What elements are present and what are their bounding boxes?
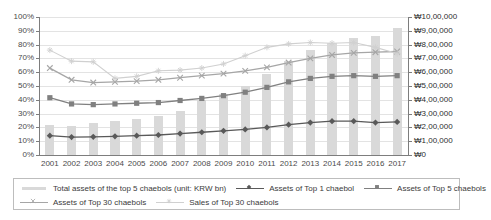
data-point-diamond — [247, 185, 252, 190]
legend-item[interactable]: Sales of Top 30 chaebols — [156, 197, 278, 208]
data-point-cross — [31, 199, 35, 203]
x-axis-tick-label: 2017 — [384, 159, 410, 168]
data-point-square — [91, 102, 96, 107]
data-point-square — [243, 90, 248, 95]
data-point-diamond — [68, 134, 74, 140]
data-point-square — [134, 101, 139, 106]
left-axis-tick-label: 100% — [14, 13, 34, 21]
data-point-star — [90, 59, 96, 65]
right-axis-tick-label: ₩9,00,000 — [414, 27, 453, 35]
data-point-square — [264, 85, 269, 90]
data-point-square — [329, 74, 334, 79]
right-axis-tick — [409, 86, 412, 87]
legend-item[interactable]: Assets of Top 5 chaebols — [364, 183, 486, 194]
data-point-diamond — [47, 133, 53, 139]
data-point-star — [264, 44, 270, 50]
chart-legend: Total assets of the top 5 chaebols (unit… — [13, 178, 460, 210]
data-point-diamond — [372, 119, 378, 125]
legend-item[interactable]: Assets of Top 1 chaebol — [236, 183, 354, 194]
right-axis-tick — [409, 114, 412, 115]
data-point-diamond — [286, 122, 292, 128]
legend-marker-diamond — [246, 184, 252, 190]
legend-marker-square — [374, 184, 380, 190]
legend-label: Assets of Top 1 chaebol — [269, 184, 354, 193]
right-axis-tick — [409, 58, 412, 59]
data-point-diamond — [220, 128, 226, 134]
data-point-cross — [47, 65, 53, 71]
data-point-diamond — [155, 132, 161, 138]
data-point-square — [308, 76, 313, 81]
data-point-square — [47, 95, 52, 100]
legend-swatch-cross — [20, 197, 48, 208]
legend-label: Total assets of the top 5 chaebols (unit… — [53, 184, 226, 193]
legend-item[interactable]: Total assets of the top 5 chaebols (unit… — [20, 183, 226, 194]
data-point-star — [351, 40, 357, 46]
data-point-star — [155, 68, 161, 74]
left-axis-tick-label: 70% — [18, 54, 34, 62]
left-axis-tick-label: 40% — [18, 96, 34, 104]
data-point-square — [112, 101, 117, 106]
data-point-star — [394, 51, 400, 57]
data-point-square — [395, 73, 400, 78]
plot-region: 0%10%20%30%40%50%60%70%80%90%100% ₩0₩1,0… — [0, 0, 476, 172]
legend-swatch-square — [364, 183, 392, 194]
line-series-layer — [39, 17, 408, 155]
right-axis-tick-label: ₩0 — [414, 151, 426, 159]
line-assets_top5 — [50, 76, 397, 105]
data-point-diamond — [134, 133, 140, 139]
right-axis-tick — [409, 100, 412, 101]
left-axis-tick-label: 80% — [18, 41, 34, 49]
data-point-star — [221, 61, 227, 67]
legend-row-2: Assets of Top 30 chaebolsSales of Top 30… — [20, 195, 289, 209]
data-point-star — [69, 58, 75, 64]
legend-swatch-diamond — [236, 183, 264, 194]
data-point-square — [351, 73, 356, 78]
right-axis-tick — [409, 141, 412, 142]
legend-item[interactable]: Assets of Top 30 chaebols — [20, 197, 146, 208]
left-axis-tick-label: 0% — [22, 151, 34, 159]
legend-label: Assets of Top 5 chaebols — [397, 184, 486, 193]
left-axis-tick-label: 90% — [18, 27, 34, 35]
left-axis-tick-label: 50% — [18, 82, 34, 90]
data-point-diamond — [329, 118, 335, 124]
data-point-square — [156, 100, 161, 105]
right-axis-tick — [409, 155, 412, 156]
data-point-star — [242, 53, 248, 59]
data-point-diamond — [90, 134, 96, 140]
data-point-star — [47, 47, 53, 53]
data-point-square — [69, 101, 74, 106]
right-axis-tick-label: ₩6,00,000 — [414, 68, 453, 76]
right-axis-tick — [409, 17, 412, 18]
right-axis-tick — [409, 127, 412, 128]
data-point-diamond — [264, 124, 270, 130]
data-point-diamond — [112, 133, 118, 139]
data-point-square — [199, 96, 204, 101]
left-axis-tick-label: 30% — [18, 110, 34, 118]
left-axis-tick-label: 20% — [18, 123, 34, 131]
data-point-star — [307, 40, 313, 46]
legend-marker-star — [166, 198, 172, 204]
right-axis-tick-label: ₩3,00,000 — [414, 110, 453, 118]
data-point-star — [177, 67, 183, 73]
data-point-square — [221, 93, 226, 98]
right-axis-tick-label: ₩8,00,000 — [414, 41, 453, 49]
data-point-diamond — [199, 129, 205, 135]
right-axis-tick — [409, 31, 412, 32]
right-axis-tick — [409, 72, 412, 73]
data-point-diamond — [351, 118, 357, 124]
left-axis-tick — [36, 155, 39, 156]
data-point-square — [286, 79, 291, 84]
data-point-diamond — [177, 131, 183, 137]
data-point-diamond — [394, 119, 400, 125]
data-point-square — [373, 74, 378, 79]
data-point-star — [199, 65, 205, 71]
line-assets_top30 — [50, 52, 397, 83]
right-axis-tick-label: ₩2,00,000 — [414, 123, 453, 131]
right-axis-tick-label: ₩5,00,000 — [414, 82, 453, 90]
legend-marker-cross — [30, 198, 36, 204]
data-point-star — [286, 41, 292, 47]
legend-label: Assets of Top 30 chaebols — [53, 198, 146, 207]
legend-swatch-star — [156, 197, 184, 208]
x-axis-line — [39, 155, 409, 156]
